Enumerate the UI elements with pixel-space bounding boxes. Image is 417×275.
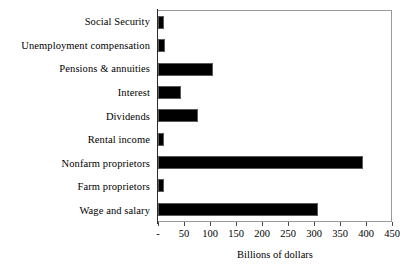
bar [158, 156, 363, 169]
bar-row [158, 11, 391, 34]
bar-row [158, 151, 391, 174]
x-axis-title: Billions of dollars [158, 248, 392, 261]
x-tick-label: 100 [202, 227, 218, 240]
bar-row [158, 128, 391, 151]
x-tick-mark [184, 222, 185, 226]
x-tick-mark [236, 222, 237, 226]
bar-row [158, 198, 391, 221]
category-axis-labels: Social SecurityUnemployment compensation… [0, 10, 154, 222]
bar [158, 179, 164, 192]
x-tick-mark [392, 222, 393, 226]
plot-area [158, 10, 392, 222]
value-axis-tick-labels: -50100150200250300350400450 [158, 227, 392, 241]
x-tick-mark [158, 222, 159, 226]
x-tick-label: 150 [228, 227, 244, 240]
x-tick-label: 200 [254, 227, 270, 240]
category-label-cell: Dividends [0, 104, 154, 128]
bar-row [158, 58, 391, 81]
x-tick-mark [262, 222, 263, 226]
category-label: Pensions & annuities [59, 63, 150, 74]
x-tick-label: 450 [384, 227, 400, 240]
bar-chart: Social SecurityUnemployment compensation… [0, 0, 417, 275]
category-label-cell: Interest [0, 81, 154, 105]
category-label: Wage and salary [79, 205, 150, 216]
bar-row [158, 104, 391, 127]
bar [158, 63, 213, 76]
category-label: Dividends [106, 111, 150, 122]
category-label-cell: Nonfarm proprietors [0, 151, 154, 175]
category-label: Interest [118, 87, 150, 98]
bar [158, 203, 318, 216]
x-tick-mark [340, 222, 341, 226]
category-label-cell: Pensions & annuities [0, 57, 154, 81]
category-label-cell: Social Security [0, 10, 154, 34]
x-tick-label: 350 [332, 227, 348, 240]
category-label: Social Security [85, 16, 150, 27]
x-tick-mark [314, 222, 315, 226]
category-label: Rental income [88, 134, 150, 145]
bar [158, 109, 198, 122]
category-label-cell: Rental income [0, 128, 154, 152]
bar [158, 39, 165, 52]
category-label-cell: Unemployment compensation [0, 34, 154, 58]
x-tick-label: 400 [358, 227, 374, 240]
x-tick-mark [210, 222, 211, 226]
x-tick-mark [366, 222, 367, 226]
x-tick-mark [288, 222, 289, 226]
x-tick-label: 300 [306, 227, 322, 240]
category-label-cell: Wage and salary [0, 199, 154, 223]
bar [158, 86, 181, 99]
bar [158, 133, 164, 146]
x-tick-label: 250 [280, 227, 296, 240]
bar [158, 16, 164, 29]
bar-row [158, 81, 391, 104]
category-label: Farm proprietors [78, 181, 150, 192]
category-label: Unemployment compensation [21, 40, 150, 51]
category-label: Nonfarm proprietors [62, 158, 151, 169]
x-tick-label: 50 [179, 227, 190, 240]
bar-row [158, 174, 391, 197]
bars-layer [158, 11, 391, 221]
category-label-cell: Farm proprietors [0, 175, 154, 199]
bar-row [158, 34, 391, 57]
x-tick-label: - [156, 227, 160, 240]
